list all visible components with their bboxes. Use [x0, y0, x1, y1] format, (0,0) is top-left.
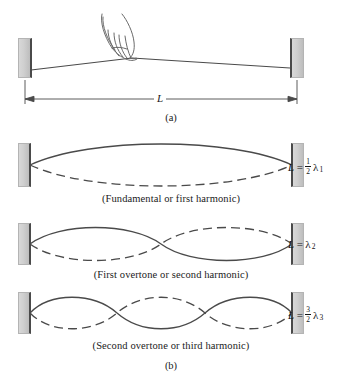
relation-equals: =: [297, 238, 303, 250]
second-harmonic-caption: (First overtone or second harmonic): [0, 269, 342, 280]
panel-letter-a: (a): [0, 112, 342, 123]
lambda-symbol: λ: [313, 161, 318, 173]
relation-equals: =: [297, 161, 303, 173]
relation-fraction: 1 2: [305, 158, 311, 175]
lambda-subscript: 1: [319, 165, 323, 174]
standing-wave-figure: L (a) L = 1 2 λ 1 (Fundamental or first …: [0, 0, 342, 379]
first-harmonic-relation: L = 1 2 λ 1: [288, 158, 324, 175]
relation-lhs: L: [288, 161, 294, 173]
relation-lhs: L: [288, 238, 294, 250]
relation-fraction: 3 2: [305, 306, 311, 323]
fraction-denominator: 2: [305, 316, 311, 324]
first-harmonic-caption: (Fundamental or first harmonic): [0, 193, 342, 204]
length-label: L: [154, 92, 166, 104]
third-harmonic-relation: L = 3 2 λ 3: [288, 306, 324, 323]
panel-first-harmonic: L = 1 2 λ 1 (Fundamental or first harmon…: [0, 130, 342, 218]
second-harmonic-relation: L = λ 2: [288, 238, 316, 250]
panel-third-harmonic: L = 3 2 λ 3 (Second overtone or third ha…: [0, 288, 342, 358]
third-harmonic-caption: (Second overtone or third harmonic): [0, 340, 342, 351]
second-harmonic-solid-wave: [30, 228, 292, 261]
fraction-denominator: 2: [305, 168, 311, 176]
plucked-string-drawing: [0, 0, 342, 130]
first-harmonic-solid-wave: [30, 144, 292, 165]
lambda-subscript: 2: [312, 242, 316, 251]
panel-plucked-string: L (a): [0, 0, 342, 130]
third-harmonic-solid-wave: [30, 297, 292, 329]
panel-letter-b: (b): [0, 360, 342, 371]
relation-lhs: L: [288, 309, 294, 321]
relation-equals: =: [297, 309, 303, 321]
fraction-numerator: 1: [305, 158, 311, 166]
third-harmonic-dashed-wave: [30, 297, 292, 329]
lambda-subscript: 3: [319, 313, 323, 322]
hand-icon: [101, 14, 137, 61]
lambda-symbol: λ: [305, 238, 310, 250]
string-path: [31, 58, 290, 70]
fraction-numerator: 3: [305, 306, 311, 314]
lambda-symbol: λ: [313, 309, 318, 321]
first-harmonic-dashed-wave: [30, 165, 292, 186]
panel-second-harmonic: L = λ 2 (First overtone or second harmon…: [0, 218, 342, 288]
